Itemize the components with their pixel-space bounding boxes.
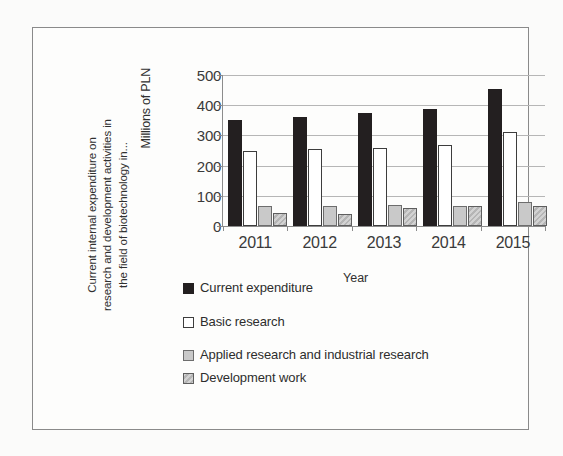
bar-2014-series-0 (423, 109, 437, 226)
legend-label-1: Basic research (200, 314, 285, 331)
legend-label-0: Current expenditure (200, 280, 313, 297)
y-tick-label-200: 200 (181, 158, 221, 175)
chart-title-line-3: the field of biotechnology in... (116, 142, 132, 288)
legend-item-0[interactable]: Current expenditure (183, 280, 513, 297)
x-category-2013: 2013 (352, 234, 416, 258)
y-axis-tick-labels: 5004003002001000 (181, 68, 221, 233)
bar-2012-series-0 (293, 117, 307, 226)
y-axis-title: Millions of PLN (137, 68, 155, 218)
bar-2013-series-2 (388, 205, 402, 226)
bar-2011-series-1 (243, 151, 257, 226)
legend-swatch-icon-2 (183, 350, 194, 361)
bar-2015-series-3 (533, 206, 547, 226)
chart-title-line-1: Current internal expenditure on (85, 137, 101, 292)
x-tick-mark-0 (223, 226, 224, 231)
y-tick-label-0: 0 (181, 218, 221, 235)
legend-item-1[interactable]: Basic research (183, 314, 513, 331)
x-axis-category-labels: 20112012201320142015 (223, 234, 545, 258)
bar-2015-series-0 (488, 89, 502, 226)
bar-2013-series-1 (373, 148, 387, 226)
x-tick-mark-5 (545, 226, 546, 231)
bar-group-2014 (418, 75, 483, 226)
legend-swatch-icon-0 (183, 283, 194, 294)
y-tick-label-300: 300 (181, 127, 221, 144)
bar-2013-series-0 (358, 113, 372, 226)
bar-2011-series-3 (273, 213, 287, 226)
x-axis-tick-marks (223, 226, 545, 232)
legend-swatch-icon-1 (183, 317, 194, 328)
bar-2013-series-3 (403, 208, 417, 226)
chart-title: Current internal expenditure on research… (71, 80, 145, 350)
plot-area (223, 75, 545, 226)
chart-title-line-2: research and development activities in (100, 119, 116, 311)
legend-swatch-icon-3 (183, 373, 194, 384)
x-tick-mark-1 (287, 226, 288, 231)
legend-item-2[interactable]: Applied research and industrial research (183, 347, 513, 364)
chart-figure-frame: Current internal expenditure on research… (32, 27, 529, 430)
y-tick-label-400: 400 (181, 97, 221, 114)
y-tick-label-500: 500 (181, 67, 221, 84)
bar-2014-series-2 (453, 206, 467, 226)
x-category-2012: 2012 (287, 234, 351, 258)
bar-2015-series-1 (503, 132, 517, 226)
bar-group-2011 (223, 75, 288, 226)
legend-label-2: Applied research and industrial research (200, 347, 429, 364)
bar-group-2013 (353, 75, 418, 226)
x-tick-mark-4 (481, 226, 482, 231)
x-category-2011: 2011 (223, 234, 287, 258)
y-tick-label-100: 100 (181, 188, 221, 205)
x-tick-mark-2 (352, 226, 353, 231)
x-tick-mark-3 (416, 226, 417, 231)
x-category-2014: 2014 (416, 234, 480, 258)
bar-2015-series-2 (518, 202, 532, 226)
bar-group-2015 (483, 75, 548, 226)
bar-2012-series-1 (308, 149, 322, 226)
legend-label-3: Development work (200, 370, 306, 387)
x-category-2015: 2015 (481, 234, 545, 258)
legend-item-3[interactable]: Development work (183, 370, 513, 387)
bar-2011-series-0 (228, 120, 242, 226)
bar-2012-series-2 (323, 206, 337, 226)
bar-2012-series-3 (338, 214, 352, 226)
chart-legend: Current expenditureBasic researchApplied… (183, 280, 513, 404)
bar-2014-series-1 (438, 145, 452, 226)
bar-groups (223, 75, 545, 226)
bar-2011-series-2 (258, 206, 272, 226)
bar-2014-series-3 (468, 206, 482, 226)
bar-group-2012 (288, 75, 353, 226)
